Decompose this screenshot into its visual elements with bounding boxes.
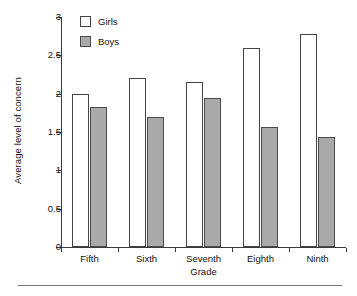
x-axis-label-ninth: Ninth [283,253,353,264]
bar-ninth-girls [300,34,317,247]
y-axis-tick-label: 1 [27,164,61,175]
y-axis-tick: 0.5 [0,209,61,210]
y-axis-tick-label: 0.5 [27,203,61,214]
x-axis-tick-mark [118,248,119,252]
bar-sixth-girls [129,78,146,247]
y-axis-tick-label: 1.5 [27,126,61,137]
bar-fifth-girls [72,94,89,247]
x-axis-tick-mark [289,248,290,252]
legend-item-girls: Girls [80,13,119,29]
legend-item-boys: Boys [80,33,119,49]
bar-seventh-boys [204,98,221,248]
bar-chart-figure: Average level of concern 00.511.522.53 F… [0,0,357,296]
x-axis-tick-mark [61,248,62,252]
y-axis-tick: 1.5 [0,132,61,133]
footer-rule [18,285,342,286]
bar-eighth-boys [261,127,278,247]
legend-swatch-girls [80,16,91,27]
x-axis-line [61,247,346,248]
bar-sixth-boys [147,117,164,247]
legend-label-girls: Girls [98,16,118,27]
legend-label-boys: Boys [98,36,119,47]
y-axis-title: Average level of concern [12,46,23,216]
y-axis-tick: 2.5 [0,55,61,56]
x-axis-title: Grade [61,266,346,277]
x-axis-tick-mark [346,248,347,252]
bar-seventh-girls [186,82,203,247]
y-axis-tick-label: 3 [27,11,61,22]
y-axis-tick: 3 [0,17,61,18]
chart-legend: GirlsBoys [80,13,119,53]
bar-fifth-boys [90,107,107,247]
bar-ninth-boys [318,137,335,247]
y-axis-tick-label: 0 [27,241,61,252]
bar-eighth-girls [243,48,260,247]
y-axis-tick-label: 2.5 [27,49,61,60]
y-axis-tick: 2 [0,94,61,95]
x-axis-tick-mark [232,248,233,252]
legend-swatch-boys [80,36,91,47]
x-axis-tick-mark [175,248,176,252]
y-axis-tick-label: 2 [27,88,61,99]
y-axis-tick: 1 [0,170,61,171]
y-axis-tick: 0 [0,247,61,248]
